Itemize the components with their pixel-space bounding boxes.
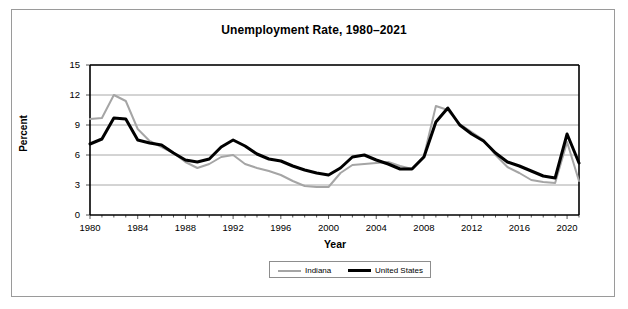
x-axis-tick-label: 1988 <box>165 222 205 233</box>
x-axis-title: Year <box>90 238 580 250</box>
chart-figure: Unemployment Rate, 1980–2021 Percent Yea… <box>0 0 628 309</box>
legend-line-swatch <box>348 269 371 272</box>
y-axis-tick-label: 12 <box>54 89 80 100</box>
y-axis-tick-label: 9 <box>54 119 80 130</box>
legend-label: Indiana <box>305 266 331 275</box>
legend-line-swatch <box>278 270 301 272</box>
y-axis-title: Percent <box>18 94 29 174</box>
x-axis-tick-label: 2012 <box>452 222 492 233</box>
plot-background <box>90 65 579 215</box>
legend-item-united-states[interactable]: United States <box>348 262 423 279</box>
y-axis-tick-label: 15 <box>54 59 80 70</box>
legend-label: United States <box>375 266 423 275</box>
y-axis-tick-label: 6 <box>54 149 80 160</box>
legend-item-indiana[interactable]: Indiana <box>278 262 331 279</box>
x-axis-tick-label: 2020 <box>547 222 587 233</box>
y-axis-tick-label: 0 <box>54 209 80 220</box>
x-axis-tick-label: 1992 <box>213 222 253 233</box>
x-axis-tick-label: 2008 <box>404 222 444 233</box>
x-axis-tick-label: 1980 <box>70 222 110 233</box>
x-axis-tick-label: 2000 <box>309 222 349 233</box>
chart-legend: IndianaUnited States <box>269 261 431 278</box>
y-axis-tick-label: 3 <box>54 179 80 190</box>
x-axis-tick-label: 1984 <box>118 222 158 233</box>
x-axis-tick-label: 2016 <box>499 222 539 233</box>
x-axis-tick-label: 1996 <box>261 222 301 233</box>
x-axis-tick-label: 2004 <box>356 222 396 233</box>
